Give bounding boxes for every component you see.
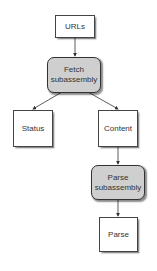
node-status-label: Status [22, 124, 45, 134]
node-parse-subassembly: Parse subassembly [91, 165, 145, 200]
node-fetch-label: Fetch subassembly [48, 65, 100, 85]
node-parse-sub-label: Parse subassembly [92, 173, 144, 193]
node-status: Status [13, 110, 53, 147]
node-fetch-subassembly: Fetch subassembly [47, 57, 101, 93]
edge-fetch-status [33, 92, 62, 109]
node-content-label: Content [104, 124, 132, 134]
node-parse: Parse [99, 217, 138, 252]
edge-fetch-content [88, 92, 118, 109]
node-parse-label: Parse [108, 230, 129, 240]
node-content: Content [98, 110, 138, 147]
node-urls-label: URLs [65, 22, 85, 32]
node-urls: URLs [55, 15, 95, 38]
